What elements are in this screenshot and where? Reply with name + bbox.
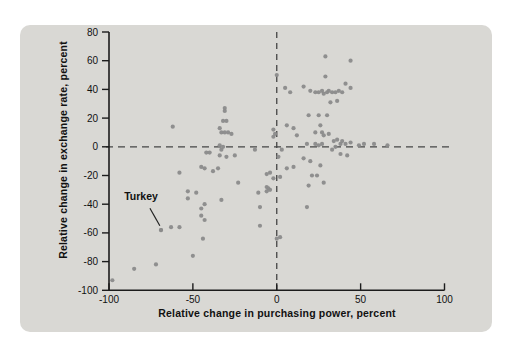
- data-point: [199, 206, 203, 210]
- data-point: [313, 130, 317, 134]
- data-point: [343, 82, 347, 86]
- data-point: [325, 113, 329, 117]
- data-point: [278, 235, 282, 239]
- data-point: [328, 100, 332, 104]
- data-point: [154, 262, 158, 266]
- data-point: [191, 254, 195, 258]
- data-point: [211, 169, 215, 173]
- data-point: [271, 127, 275, 131]
- data-point: [348, 59, 352, 63]
- data-point: [203, 202, 207, 206]
- data-point: [216, 166, 220, 170]
- data-point: [307, 113, 311, 117]
- data-point: [229, 132, 233, 136]
- data-point: [340, 139, 344, 143]
- data-point: [323, 54, 327, 58]
- y-tick-label: 20: [87, 113, 99, 124]
- y-tick-label: 80: [87, 27, 99, 38]
- y-tick-label: 0: [92, 141, 98, 152]
- data-point: [280, 148, 284, 152]
- data-point: [310, 173, 314, 177]
- data-point: [291, 126, 295, 130]
- data-point: [194, 191, 198, 195]
- data-point: [322, 133, 326, 137]
- data-point: [177, 225, 181, 229]
- data-point: [357, 143, 361, 147]
- data-point: [301, 84, 305, 88]
- data-point: [218, 126, 222, 130]
- data-point: [268, 171, 272, 175]
- x-tick-label: -50: [186, 294, 201, 305]
- data-point: [258, 224, 262, 228]
- y-tick-label: 40: [87, 84, 99, 95]
- data-point: [318, 163, 322, 167]
- scatter-plot: 806040200-20-40-60-80-100-100-50050100: [0, 0, 509, 347]
- data-point: [223, 109, 227, 113]
- data-point: [208, 150, 212, 154]
- data-point: [219, 198, 223, 202]
- data-point: [278, 175, 282, 179]
- data-point: [285, 166, 289, 170]
- turkey-data-point: [159, 228, 163, 232]
- data-point: [288, 90, 292, 94]
- y-axis-title-text: Relative change in exchange rate, percen…: [57, 41, 69, 259]
- data-point: [345, 153, 349, 157]
- data-point: [348, 140, 352, 144]
- data-point: [318, 123, 322, 127]
- data-point: [333, 145, 337, 149]
- data-point: [268, 188, 272, 192]
- data-point: [372, 142, 376, 146]
- data-point: [385, 143, 389, 147]
- x-tick-label: 50: [355, 294, 367, 305]
- data-point: [338, 152, 342, 156]
- data-point: [233, 153, 237, 157]
- data-point: [186, 189, 190, 193]
- data-point: [320, 142, 324, 146]
- data-point: [199, 214, 203, 218]
- data-point: [218, 153, 222, 157]
- data-point: [283, 86, 287, 90]
- data-point: [348, 86, 352, 90]
- y-tick-label: -100: [78, 285, 98, 296]
- data-point: [203, 218, 207, 222]
- data-point: [236, 181, 240, 185]
- data-point: [276, 155, 280, 159]
- data-point: [362, 142, 366, 146]
- x-tick-label: -100: [99, 294, 119, 305]
- data-point: [253, 148, 257, 152]
- data-point: [330, 148, 334, 152]
- data-point: [317, 113, 321, 117]
- data-point: [322, 181, 326, 185]
- y-tick-label: -40: [84, 199, 99, 210]
- data-point: [335, 99, 339, 103]
- data-point: [315, 173, 319, 177]
- data-point: [271, 176, 275, 180]
- data-point: [335, 138, 339, 142]
- data-point: [203, 166, 207, 170]
- data-point: [169, 225, 173, 229]
- data-point: [343, 142, 347, 146]
- data-point: [177, 171, 181, 175]
- y-tick-label: -60: [84, 227, 99, 238]
- data-point: [308, 159, 312, 163]
- x-tick-label: 0: [274, 294, 280, 305]
- x-tick-label: 100: [436, 294, 453, 305]
- data-point: [323, 74, 327, 78]
- page: { "figure": { "page_bg": "#ffffff", "pan…: [0, 0, 509, 347]
- x-axis-title: Relative change in purchasing power, per…: [109, 307, 445, 319]
- data-point: [256, 191, 260, 195]
- data-point: [171, 125, 175, 129]
- y-tick-label: -80: [84, 256, 99, 267]
- data-point: [275, 73, 279, 77]
- data-point: [224, 119, 228, 123]
- data-point: [258, 205, 262, 209]
- turkey-annotation-line: [150, 208, 160, 226]
- data-point: [340, 90, 344, 94]
- data-point: [308, 89, 312, 93]
- data-point: [305, 142, 309, 146]
- data-point: [186, 196, 190, 200]
- data-point: [110, 278, 114, 282]
- data-point: [224, 155, 228, 159]
- data-point: [291, 165, 295, 169]
- y-tick-label: -20: [84, 170, 99, 181]
